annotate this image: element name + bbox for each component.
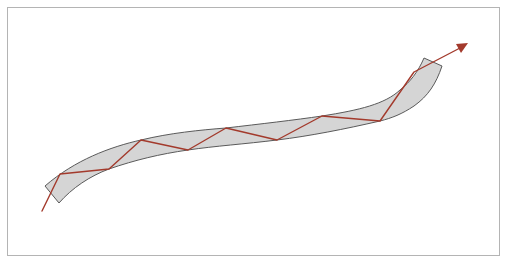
arrow-icon	[456, 43, 468, 53]
optical-fiber-core	[45, 58, 442, 203]
optical-fiber-diagram	[0, 0, 507, 261]
